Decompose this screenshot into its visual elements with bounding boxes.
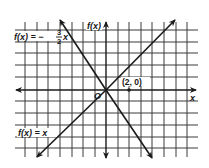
y-axis-label: f(x) [87,21,101,31]
svg-text:2: 2 [57,37,61,46]
point-2-0 [127,88,131,92]
x-axis-label: x [189,93,196,103]
svg-text:x: x [62,32,69,42]
svg-text:f(x) = −: f(x) = − [14,32,44,42]
line2-label: f(x) = x [18,128,48,138]
origin-label: O [94,91,101,101]
point-label: (2, 0) [122,77,142,87]
svg-text:3: 3 [57,28,61,37]
coordinate-graph: f(x) x O (2, 0) f(x) = − 3 2 x f(x) = x [0,0,209,168]
line1-label: f(x) = − 3 2 x [14,28,69,46]
